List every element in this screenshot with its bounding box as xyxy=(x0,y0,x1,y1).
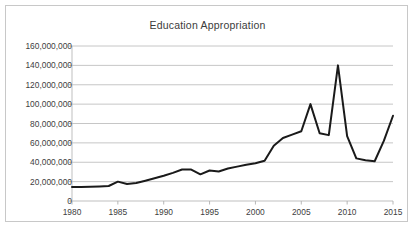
chart-frame: Education Appropriation 020,000,00040,00… xyxy=(5,5,408,222)
x-axis-tick-label: 1985 xyxy=(109,207,128,217)
x-axis-label-group: 19801985199019952000200520102015 xyxy=(6,6,409,223)
x-axis-tick-label: 2000 xyxy=(246,207,265,217)
plot-area: 020,000,00040,000,00060,000,00080,000,00… xyxy=(6,6,409,223)
x-axis-tick-label: 2005 xyxy=(292,207,311,217)
x-axis-tick-label: 1980 xyxy=(63,207,82,217)
x-axis-tick-label: 1995 xyxy=(200,207,219,217)
x-axis-tick-label: 1990 xyxy=(154,207,173,217)
x-axis-tick-label: 2010 xyxy=(338,207,357,217)
x-axis-tick-label: 2015 xyxy=(384,207,403,217)
